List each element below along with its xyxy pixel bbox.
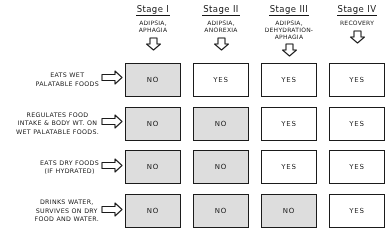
stage-column-header-4: Stage IV RECOVERY [329, 0, 385, 58]
matrix-cell: YES [329, 194, 385, 228]
down-block-arrow-icon [145, 36, 162, 55]
matrix-cell: NO [193, 194, 249, 228]
matrix-cell: NO [261, 194, 317, 228]
row-label-text: EATS DRY FOODS (IF HYDRATED) [40, 159, 100, 176]
row-label-2: REGULATES FOOD INTAKE & BODY WT. ON WET … [0, 102, 125, 146]
matrix-row: NO NO YES YES [125, 102, 385, 146]
matrix-cell: YES [329, 150, 385, 184]
matrix-cell: NO [193, 107, 249, 141]
matrix-cell: YES [329, 63, 385, 97]
matrix-cell: YES [193, 63, 249, 97]
stage-title: Stage II [202, 4, 239, 16]
matrix-cell: NO [193, 150, 249, 184]
row-label-text: REGULATES FOOD INTAKE & BODY WT. ON WET … [16, 111, 100, 137]
matrix-cell: NO [125, 107, 181, 141]
matrix-row: NO NO NO YES [125, 189, 385, 233]
stage-column-header-2: Stage II ADIPSIA, ANOREXIA [193, 0, 249, 58]
matrix-row: NO NO YES YES [125, 146, 385, 190]
stage-title: Stage IV [337, 4, 378, 16]
matrix-row: NO YES YES YES [125, 58, 385, 102]
row-label-4: DRINKS WATER, SURVIVES ON DRY FOOD AND W… [0, 189, 125, 233]
right-block-arrow-icon [101, 202, 123, 221]
stage-matrix-grid: NO YES YES YES NO NO YES YES NO NO YES Y… [125, 58, 385, 233]
matrix-cell: YES [261, 63, 317, 97]
stage-description: ADIPSIA, DEHYDRATION- APHAGIA [265, 20, 314, 40]
down-block-arrow-icon [213, 36, 230, 55]
right-block-arrow-icon [101, 70, 123, 89]
matrix-cell: YES [261, 107, 317, 141]
matrix-cell: YES [329, 107, 385, 141]
stage-title: Stage III [269, 4, 309, 16]
stage-column-header-1: Stage I ADIPSIA, APHAGIA [125, 0, 181, 58]
right-block-arrow-icon [101, 158, 123, 177]
row-label-text: EATS WET PALATABLE FOODS [35, 71, 100, 88]
row-label-text: DRINKS WATER, SURVIVES ON DRY FOOD AND W… [35, 198, 100, 224]
row-label-3: EATS DRY FOODS (IF HYDRATED) [0, 146, 125, 190]
matrix-cell: NO [125, 194, 181, 228]
stage-description: ADIPSIA, APHAGIA [139, 20, 168, 34]
row-label-column: EATS WET PALATABLE FOODS REGULATES FOOD … [0, 58, 125, 233]
stage-header-row: Stage I ADIPSIA, APHAGIA Stage II ADIPSI… [125, 0, 385, 58]
matrix-cell: NO [125, 150, 181, 184]
matrix-cell: NO [125, 63, 181, 97]
down-block-arrow-icon [349, 29, 366, 48]
stage-description: RECOVERY [340, 20, 374, 27]
stage-description: ADIPSIA, ANOREXIA [204, 20, 237, 34]
row-label-1: EATS WET PALATABLE FOODS [0, 58, 125, 102]
stage-column-header-3: Stage III ADIPSIA, DEHYDRATION- APHAGIA [261, 0, 317, 58]
matrix-cell: YES [261, 150, 317, 184]
stage-title: Stage I [136, 4, 171, 16]
right-block-arrow-icon [101, 114, 123, 133]
stage-recovery-diagram: Stage I ADIPSIA, APHAGIA Stage II ADIPSI… [0, 0, 392, 233]
